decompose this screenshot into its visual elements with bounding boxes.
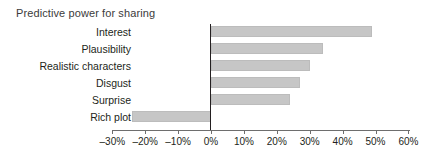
x-tick-label: –10%	[165, 136, 191, 148]
x-tick-label: 30%	[300, 136, 320, 148]
bar-category-label: Plausibility	[0, 42, 131, 56]
bar	[211, 26, 372, 37]
x-tick	[408, 130, 409, 134]
x-tick	[178, 130, 179, 134]
x-tick-label: 50%	[365, 136, 385, 148]
bar	[211, 77, 300, 88]
bar-row: Realistic characters	[0, 58, 438, 75]
x-tick	[145, 130, 146, 134]
x-tick-label: 40%	[333, 136, 353, 148]
x-tick	[376, 130, 377, 134]
x-tick	[343, 130, 344, 134]
bar	[211, 43, 323, 54]
x-tick	[112, 130, 113, 134]
zero-axis-line	[210, 24, 211, 131]
bar-row: Surprise	[0, 92, 438, 109]
bar-row: Rich plot	[0, 109, 438, 126]
x-tick-label: 60%	[398, 136, 418, 148]
x-tick-label: –30%	[100, 136, 126, 148]
bar-category-label: Rich plot	[0, 110, 131, 124]
plot-area: InterestPlausibilityRealistic characters…	[0, 0, 438, 159]
bar	[211, 94, 290, 105]
x-tick-label: –20%	[132, 136, 158, 148]
bar-row: Plausibility	[0, 41, 438, 58]
x-tick	[244, 130, 245, 134]
x-tick	[310, 130, 311, 134]
bar-category-label: Interest	[0, 25, 131, 39]
x-tick	[211, 130, 212, 134]
bar	[211, 60, 310, 71]
bar-category-label: Surprise	[0, 93, 131, 107]
x-axis-line	[112, 130, 410, 131]
bar-rows: InterestPlausibilityRealistic characters…	[0, 24, 438, 126]
bar-chart: Predictive power for sharing InterestPla…	[0, 0, 438, 159]
bar	[132, 111, 211, 122]
x-tick-label: 0%	[204, 136, 218, 148]
x-tick-label: 10%	[234, 136, 254, 148]
bar-category-label: Realistic characters	[0, 59, 131, 73]
bar-row: Disgust	[0, 75, 438, 92]
x-tick-label: 20%	[267, 136, 287, 148]
x-tick	[277, 130, 278, 134]
bar-category-label: Disgust	[0, 76, 131, 90]
bar-row: Interest	[0, 24, 438, 41]
